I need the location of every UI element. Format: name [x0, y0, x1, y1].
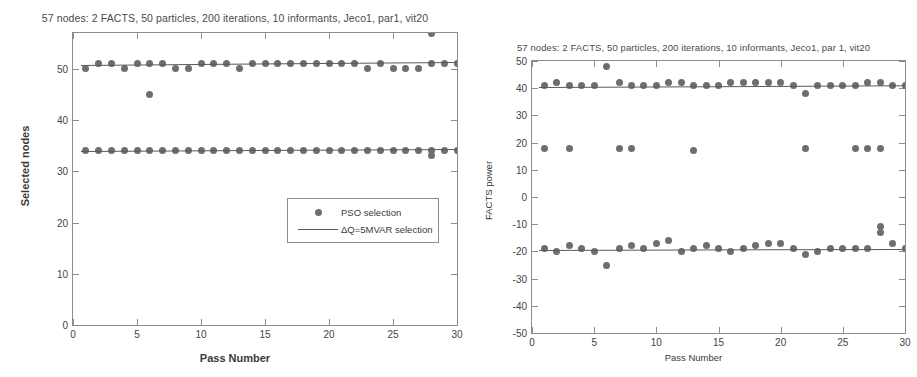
data-point	[566, 82, 573, 89]
data-point	[802, 251, 809, 258]
fit-line	[539, 85, 905, 88]
x-tick-label: 10	[651, 337, 662, 348]
plot-area-facts-power: -50-40-30-20-1001020304050051015202530	[531, 60, 906, 334]
data-point	[777, 240, 784, 247]
x-tick	[265, 33, 266, 39]
y-tick	[73, 223, 79, 224]
data-point	[95, 60, 102, 67]
x-tick	[781, 61, 782, 67]
data-point	[877, 229, 884, 236]
x-tick	[73, 319, 74, 325]
data-point	[628, 242, 635, 249]
y-tick-label: 40	[516, 83, 527, 94]
data-point	[653, 240, 660, 247]
x-tick-label: 25	[837, 337, 848, 348]
data-point	[864, 145, 871, 152]
data-point	[82, 65, 89, 72]
y-tick-label: -50	[513, 328, 527, 339]
data-point	[889, 240, 896, 247]
y-tick-label: 20	[516, 137, 527, 148]
y-tick	[532, 197, 538, 198]
data-point	[185, 65, 192, 72]
y-tick	[451, 274, 457, 275]
x-tick	[137, 33, 138, 39]
data-point	[628, 82, 635, 89]
x-tick	[656, 327, 657, 333]
data-point	[313, 147, 320, 154]
data-point	[338, 147, 345, 154]
y-tick-label: 30	[516, 110, 527, 121]
y-axis-label-right: FACTS power	[483, 131, 494, 251]
y-tick-label: -10	[513, 219, 527, 230]
x-tick	[843, 61, 844, 67]
plot-inner-left	[73, 33, 457, 325]
y-tick	[451, 69, 457, 70]
y-tick	[899, 143, 905, 144]
x-tick-label: 20	[323, 329, 334, 340]
data-point	[390, 65, 397, 72]
x-tick-label: 25	[387, 329, 398, 340]
x-tick	[329, 319, 330, 325]
x-tick	[201, 319, 202, 325]
y-tick	[532, 279, 538, 280]
y-tick	[532, 115, 538, 116]
fit-line	[539, 249, 905, 251]
data-point	[402, 65, 409, 72]
data-point	[616, 145, 623, 152]
data-point	[351, 147, 358, 154]
data-point	[802, 145, 809, 152]
x-tick	[594, 327, 595, 333]
x-tick	[532, 327, 533, 333]
y-tick-label: -40	[513, 300, 527, 311]
data-point	[578, 82, 585, 89]
data-point	[690, 147, 697, 154]
x-tick	[719, 61, 720, 67]
x-tick-label: 5	[591, 337, 597, 348]
y-tick	[451, 223, 457, 224]
data-point	[566, 145, 573, 152]
data-point	[415, 65, 422, 72]
y-tick	[73, 274, 79, 275]
y-tick-label: -30	[513, 273, 527, 284]
data-point	[236, 65, 243, 72]
y-tick-label: -20	[513, 246, 527, 257]
data-point	[603, 63, 610, 70]
y-tick-label: 50	[57, 63, 68, 74]
legend-label-pso-left: PSO selection	[341, 207, 401, 218]
x-axis-label-left: Pass Number	[0, 352, 470, 364]
legend-row-dq-left: ΔQ=5MVAR selection	[295, 221, 431, 238]
y-tick	[899, 170, 905, 171]
y-tick	[899, 279, 905, 280]
data-point	[591, 82, 598, 89]
x-tick	[201, 33, 202, 39]
data-point	[428, 33, 435, 37]
data-point	[566, 242, 573, 249]
data-point	[616, 79, 623, 86]
y-tick	[532, 170, 538, 171]
data-point	[665, 237, 672, 244]
y-tick	[532, 224, 538, 225]
data-point	[603, 262, 610, 269]
data-point	[877, 145, 884, 152]
y-tick	[899, 224, 905, 225]
x-tick	[843, 327, 844, 333]
chart-title-right: 57 nodes: 2 FACTS, 50 particles, 200 ite…	[470, 42, 917, 53]
y-tick-label: 40	[57, 115, 68, 126]
y-tick-label: 20	[57, 217, 68, 228]
data-point	[300, 147, 307, 154]
y-tick	[73, 171, 79, 172]
y-tick-label: 0	[62, 320, 68, 331]
y-tick	[451, 171, 457, 172]
figure-facts-power: 57 nodes: 2 FACTS, 50 particles, 200 ite…	[470, 0, 917, 377]
figure-selected-nodes: 57 nodes: 2 FACTS, 50 particles, 200 ite…	[0, 0, 470, 377]
legend-left: PSO selection ΔQ=5MVAR selection	[287, 198, 439, 243]
data-point	[364, 65, 371, 72]
x-tick-label: 15	[259, 329, 270, 340]
data-point	[640, 82, 647, 89]
data-point	[146, 91, 153, 98]
x-tick-label: 0	[529, 337, 535, 348]
data-point	[616, 245, 623, 252]
x-tick	[719, 327, 720, 333]
y-tick-label: 0	[521, 192, 527, 203]
y-tick-label: 10	[516, 164, 527, 175]
